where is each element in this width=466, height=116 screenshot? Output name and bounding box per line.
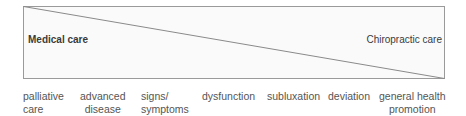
stage-line1: palliative bbox=[23, 90, 64, 103]
stage-general-health-promotion: general health promotion bbox=[379, 90, 446, 116]
stage-line2: disease bbox=[80, 103, 126, 116]
stage-line2: symptoms bbox=[141, 103, 189, 116]
stage-line2: care bbox=[23, 103, 64, 116]
stage-dysfunction: dysfunction bbox=[202, 90, 255, 103]
medical-care-label: Medical care bbox=[28, 34, 88, 45]
stage-signs-symptoms: signs/ symptoms bbox=[141, 90, 189, 116]
chiropractic-care-label: Chiropractic care bbox=[366, 34, 442, 45]
stage-line1: deviation bbox=[328, 90, 370, 103]
stage-line2: promotion bbox=[379, 103, 446, 116]
stage-line1: subluxation bbox=[267, 90, 320, 103]
stage-line1: general health bbox=[379, 90, 446, 103]
stage-line1: dysfunction bbox=[202, 90, 255, 103]
care-spectrum-diagram: Medical care Chiropractic care palliativ… bbox=[0, 0, 466, 116]
stage-line1: signs/ bbox=[141, 90, 189, 103]
stage-line1: advanced bbox=[80, 90, 126, 103]
stage-deviation: deviation bbox=[328, 90, 370, 103]
stage-advanced-disease: advanced disease bbox=[80, 90, 126, 116]
stage-subluxation: subluxation bbox=[267, 90, 320, 103]
stage-palliative-care: palliative care bbox=[23, 90, 64, 116]
